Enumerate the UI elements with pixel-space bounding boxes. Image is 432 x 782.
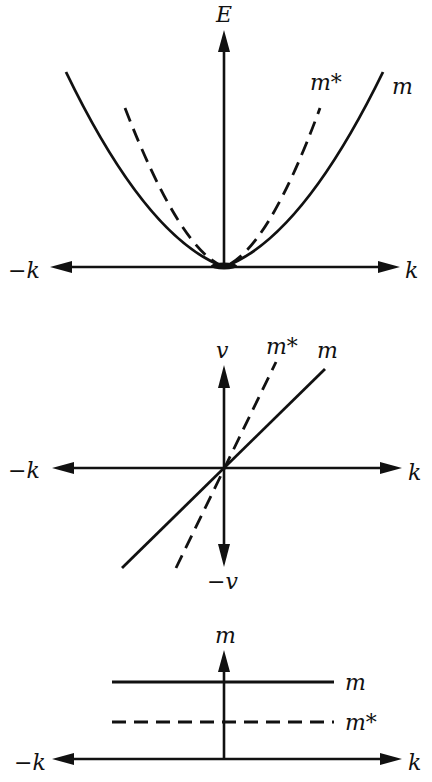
pos-k-arrow-icon [380, 462, 402, 474]
pos-k-label: k [408, 460, 421, 485]
pos-k-arrow-icon [378, 261, 400, 273]
origin-mark [211, 263, 237, 270]
v-axis-label: v [216, 338, 229, 363]
neg-v-arrow-icon [218, 544, 230, 567]
neg-k-arrow-icon [52, 753, 74, 765]
e-axis-label: E [215, 2, 232, 27]
pos-k-arrow-icon [380, 753, 402, 765]
parabola-m-star [125, 108, 320, 267]
pos-k-label: k [408, 750, 421, 775]
line-m-star [176, 362, 276, 568]
pos-k-label: k [405, 258, 418, 283]
m-star-label: m* [310, 70, 342, 95]
v-arrow-icon [218, 365, 230, 388]
m-label: m [317, 338, 338, 363]
effective-mass-diagram: E −k k m* m v −v −k k m* m m m m* − [0, 0, 432, 782]
e-arrow-icon [218, 30, 230, 52]
neg-k-arrow-icon [52, 462, 74, 474]
panel-mass: m m m* −k k [14, 623, 421, 775]
m-star-label: m* [345, 710, 377, 735]
neg-k-label: −k [14, 750, 46, 775]
m-arrow-icon [218, 650, 230, 672]
neg-v-label: −v [207, 569, 238, 594]
neg-k-label: −k [8, 458, 40, 483]
panel-velocity: v −v −k k m* m [8, 334, 421, 594]
neg-k-label: −k [8, 258, 40, 283]
m-label: m [392, 74, 413, 99]
neg-k-arrow-icon [50, 261, 72, 273]
panel-energy-dispersion: E −k k m* m [8, 2, 418, 283]
m-label: m [345, 670, 366, 695]
m-star-label: m* [266, 334, 298, 359]
m-axis-label: m [215, 623, 236, 648]
